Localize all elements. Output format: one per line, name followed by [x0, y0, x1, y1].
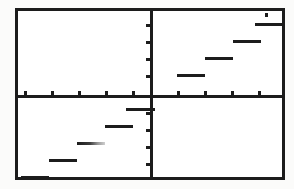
- y-axis-tick: [146, 41, 150, 44]
- y-axis-tick: [146, 24, 150, 27]
- step-segment: [205, 57, 233, 60]
- x-axis-tick: [51, 91, 54, 95]
- x-axis-tick: [258, 91, 261, 95]
- step-segment: [126, 108, 155, 111]
- calculator-screen: [0, 0, 294, 189]
- y-axis-tick: [146, 75, 150, 78]
- y-axis-tick: [146, 58, 150, 61]
- y-axis-tick: [146, 129, 150, 132]
- step-segment: [177, 74, 205, 77]
- x-axis-tick: [78, 91, 81, 95]
- x-axis-tick: [177, 91, 180, 95]
- x-axis-tick: [105, 91, 108, 95]
- top-right-corner-mark: [265, 13, 268, 17]
- x-axis-tick: [204, 91, 207, 95]
- step-segment: [49, 159, 77, 162]
- step-segment: [233, 40, 261, 43]
- graph-plot-area[interactable]: [18, 11, 282, 177]
- x-axis-tick: [24, 91, 27, 95]
- y-axis: [150, 11, 153, 177]
- graph-viewport-frame: [15, 8, 285, 180]
- y-axis-tick: [146, 146, 150, 149]
- y-axis-tick: [146, 112, 150, 115]
- step-segment: [255, 23, 282, 26]
- x-axis-tick: [132, 91, 135, 95]
- step-segment: [77, 142, 105, 145]
- step-segment: [21, 176, 49, 177]
- step-segment: [105, 125, 133, 128]
- x-axis-tick: [231, 91, 234, 95]
- y-axis-tick: [146, 163, 150, 166]
